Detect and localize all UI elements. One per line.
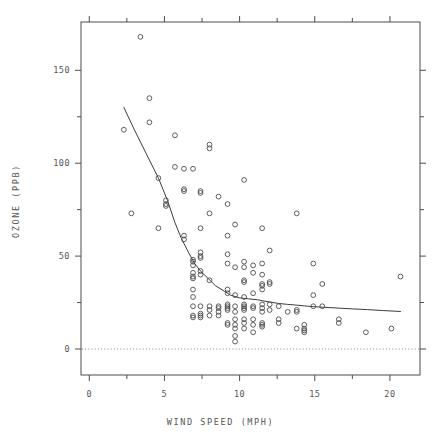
- data-point: [233, 317, 238, 322]
- data-point: [276, 304, 281, 309]
- data-point: [191, 304, 196, 309]
- data-point: [363, 330, 368, 335]
- data-point: [147, 120, 152, 125]
- axes-border: [81, 22, 420, 375]
- data-point: [294, 326, 299, 331]
- data-point: [320, 282, 325, 287]
- data-point: [320, 304, 325, 309]
- data-point: [233, 304, 238, 309]
- scatter-plot-figure: 05101520 050100150 WIND SPEED (MPH) OZON…: [0, 0, 441, 444]
- data-point: [225, 252, 230, 257]
- data-point: [260, 272, 265, 277]
- data-point: [251, 317, 256, 322]
- data-point: [294, 211, 299, 216]
- x-tick-label: 20: [384, 389, 395, 399]
- x-tick-label: 5: [162, 389, 168, 399]
- data-point: [242, 326, 247, 331]
- data-point: [207, 211, 212, 216]
- x-axis-tick-labels: 05101520: [86, 389, 395, 399]
- data-point: [173, 133, 178, 138]
- data-point: [129, 211, 134, 216]
- data-point: [285, 309, 290, 314]
- plot-frame: [81, 22, 420, 375]
- data-point: [251, 270, 256, 275]
- y-axis-tick-labels: 050100150: [53, 65, 70, 354]
- x-tick-label: 10: [234, 389, 245, 399]
- data-point: [147, 96, 152, 101]
- y-axis-title: OZONE (PPB): [11, 141, 21, 261]
- data-point: [216, 194, 221, 199]
- data-point: [233, 265, 238, 270]
- data-point: [398, 274, 403, 279]
- data-point: [198, 226, 203, 231]
- x-tick-label: 0: [86, 389, 92, 399]
- data-point: [267, 308, 272, 313]
- data-point: [267, 302, 272, 307]
- data-point: [242, 178, 247, 183]
- data-point: [191, 166, 196, 171]
- data-point: [225, 261, 230, 266]
- data-point: [311, 261, 316, 266]
- data-point: [389, 326, 394, 331]
- data-point: [251, 291, 256, 296]
- y-tick-label: 100: [53, 158, 70, 168]
- lowess-smoother-line: [124, 107, 401, 311]
- data-point-markers: [121, 34, 402, 344]
- data-point: [233, 309, 238, 314]
- data-point: [182, 166, 187, 171]
- y-tick-label: 150: [53, 65, 70, 75]
- plot-canvas: 05101520 050100150: [0, 0, 441, 444]
- data-point: [156, 226, 161, 231]
- data-point: [251, 263, 256, 268]
- data-point: [251, 322, 256, 327]
- y-tick-label: 0: [64, 344, 70, 354]
- data-point: [198, 304, 203, 309]
- data-point: [191, 287, 196, 292]
- data-point: [260, 226, 265, 231]
- data-point: [233, 222, 238, 227]
- data-point: [225, 202, 230, 207]
- data-point: [267, 248, 272, 253]
- data-point: [225, 233, 230, 238]
- data-point: [207, 313, 212, 318]
- data-point: [173, 165, 178, 170]
- data-point: [191, 295, 196, 300]
- data-point: [251, 330, 256, 335]
- data-point: [121, 127, 126, 132]
- x-tick-label: 15: [309, 389, 320, 399]
- data-point: [233, 334, 238, 339]
- data-point: [260, 261, 265, 266]
- data-point: [311, 293, 316, 298]
- data-point: [233, 339, 238, 344]
- x-axis-ticks: [89, 16, 390, 381]
- x-axis-title: WIND SPEED (MPH): [0, 417, 441, 427]
- y-tick-label: 50: [59, 251, 70, 261]
- data-point: [242, 265, 247, 270]
- data-point: [242, 259, 247, 264]
- data-point: [138, 34, 143, 39]
